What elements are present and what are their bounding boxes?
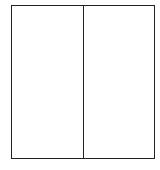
left-cell: [12, 6, 83, 158]
right-cell: [84, 6, 154, 158]
